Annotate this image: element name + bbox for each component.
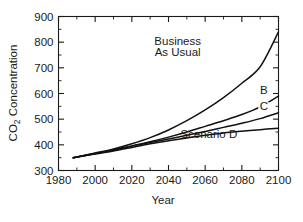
y-tick-label: 500 <box>34 113 53 125</box>
series-annotation-label: Business <box>154 35 201 47</box>
y-tick-label: 600 <box>34 88 53 100</box>
x-tick-label: 2020 <box>119 174 145 186</box>
series-annotation-label: Scenario D <box>180 128 237 140</box>
y-tick-label: 400 <box>34 139 53 151</box>
chart-canvas: 1980200020202040206020802100 30040050060… <box>0 0 303 222</box>
series-annotation-label: As Usual <box>155 46 201 58</box>
x-tick-label: 2080 <box>229 174 255 186</box>
series-annotation-label: C <box>260 100 268 112</box>
series-line <box>73 128 278 158</box>
svg-text:CO2 Concentration: CO2 Concentration <box>7 45 22 142</box>
y-axis-title-prefix: CO <box>7 124 19 141</box>
y-tick-label: 700 <box>34 62 53 74</box>
x-axis-title: Year <box>151 194 174 206</box>
x-tick-label: 2000 <box>82 174 108 186</box>
x-tick-label: 2040 <box>156 174 182 186</box>
x-tick-label: 2100 <box>266 174 292 186</box>
x-tick-label: 2060 <box>192 174 218 186</box>
co2-concentration-chart: 1980200020202040206020802100 30040050060… <box>0 0 303 222</box>
series-annotation-label: B <box>260 84 268 96</box>
y-tick-label: 800 <box>34 36 53 48</box>
y-tick-label: 300 <box>34 165 53 177</box>
x-axis-tick-labels: 1980200020202040206020802100 <box>46 174 292 186</box>
y-axis-title-suffix: Concentration <box>7 45 19 120</box>
y-tick-label: 900 <box>34 11 53 23</box>
y-axis-tick-labels: 300400500600700800900 <box>34 11 53 177</box>
y-axis-title: CO2 Concentration <box>7 45 22 142</box>
